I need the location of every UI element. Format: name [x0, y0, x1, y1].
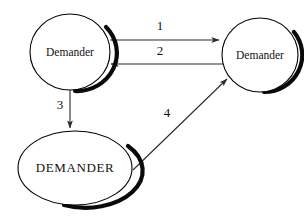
edge-4-group[interactable]: 4 — [133, 79, 227, 170]
node-demander-bottom[interactable]: DEMANDER — [18, 131, 143, 208]
edge-1-group[interactable]: 1 — [110, 18, 219, 40]
diagram-canvas-container: 1 2 3 4 Demander — [0, 0, 304, 223]
edge-3-label: 3 — [57, 97, 64, 112]
edge-3-group[interactable]: 3 — [57, 90, 70, 128]
node-demander-top-right[interactable]: Demander — [222, 18, 302, 92]
edge-4-label: 4 — [164, 105, 171, 120]
node-edge-diagram: 1 2 3 4 Demander — [0, 0, 304, 223]
edge-2-group[interactable]: 2 — [111, 43, 226, 64]
node-demander-top-left[interactable]: Demander — [30, 14, 117, 91]
edge-1-label: 1 — [157, 18, 164, 33]
node-top-right-label: Demander — [236, 49, 284, 61]
edge-4-line[interactable] — [133, 79, 227, 170]
node-bottom-label: DEMANDER — [36, 160, 114, 175]
node-top-left-label: Demander — [46, 46, 94, 58]
edge-2-label: 2 — [157, 43, 164, 58]
